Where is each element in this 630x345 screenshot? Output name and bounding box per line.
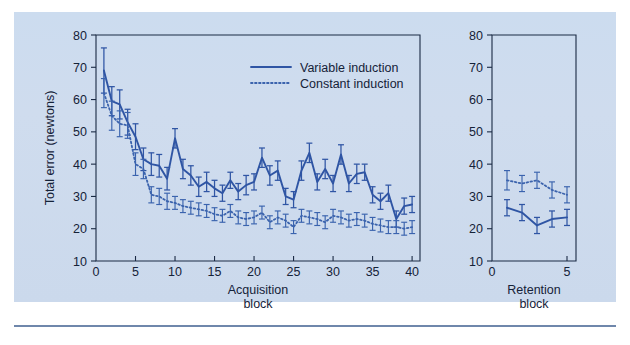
y-tick-label: 30 bbox=[469, 190, 483, 204]
error-bars-variable bbox=[101, 48, 415, 227]
chart-canvas: 10203040506070800510152025303540Acquisit… bbox=[0, 0, 630, 345]
figure-root: 10203040506070800510152025303540Acquisit… bbox=[0, 0, 630, 345]
plot-frame bbox=[492, 35, 576, 261]
x-axis-title-line: block bbox=[243, 297, 273, 311]
x-axis-title-line: block bbox=[519, 297, 549, 311]
y-tick-label: 40 bbox=[469, 158, 483, 172]
y-tick-label: 80 bbox=[469, 29, 483, 43]
y-tick-label: 10 bbox=[469, 255, 483, 269]
retention-panel: 102030405060708005Retentionblock bbox=[469, 29, 576, 312]
y-tick-label: 20 bbox=[469, 222, 483, 236]
y-axis-title: Total error (newtons) bbox=[43, 91, 57, 206]
y-tick-label: 40 bbox=[73, 158, 87, 172]
series-line-constant bbox=[104, 93, 412, 229]
x-tick-label: 30 bbox=[326, 265, 340, 279]
y-tick-label: 60 bbox=[469, 93, 483, 107]
x-axis-title-line: Acquisition bbox=[228, 283, 288, 297]
chart-legend: Variable inductionConstant induction bbox=[251, 61, 404, 91]
error-bars-constant bbox=[504, 171, 570, 203]
y-tick-label: 70 bbox=[73, 61, 87, 75]
y-tick-label: 60 bbox=[73, 93, 87, 107]
y-tick-label: 50 bbox=[73, 125, 87, 139]
legend-label-constant: Constant induction bbox=[300, 77, 404, 91]
x-tick-label: 35 bbox=[366, 265, 380, 279]
y-tick-label: 70 bbox=[469, 61, 483, 75]
x-tick-label: 20 bbox=[247, 265, 261, 279]
series-line-variable bbox=[104, 71, 412, 220]
x-tick-label: 40 bbox=[405, 265, 419, 279]
x-tick-label: 15 bbox=[208, 265, 222, 279]
y-tick-label: 20 bbox=[73, 222, 87, 236]
x-axis-title-line: Retention bbox=[507, 283, 561, 297]
x-tick-label: 25 bbox=[287, 265, 301, 279]
y-tick-label: 50 bbox=[469, 125, 483, 139]
y-tick-label: 10 bbox=[73, 255, 87, 269]
error-bars-variable bbox=[504, 200, 570, 234]
legend-label-variable: Variable induction bbox=[300, 61, 398, 75]
x-tick-label: 5 bbox=[564, 265, 571, 279]
x-tick-label: 0 bbox=[489, 265, 496, 279]
y-tick-label: 30 bbox=[73, 190, 87, 204]
x-tick-label: 0 bbox=[93, 265, 100, 279]
x-tick-label: 5 bbox=[132, 265, 139, 279]
error-bars-constant bbox=[101, 79, 415, 236]
x-tick-label: 10 bbox=[168, 265, 182, 279]
y-tick-label: 80 bbox=[73, 29, 87, 43]
